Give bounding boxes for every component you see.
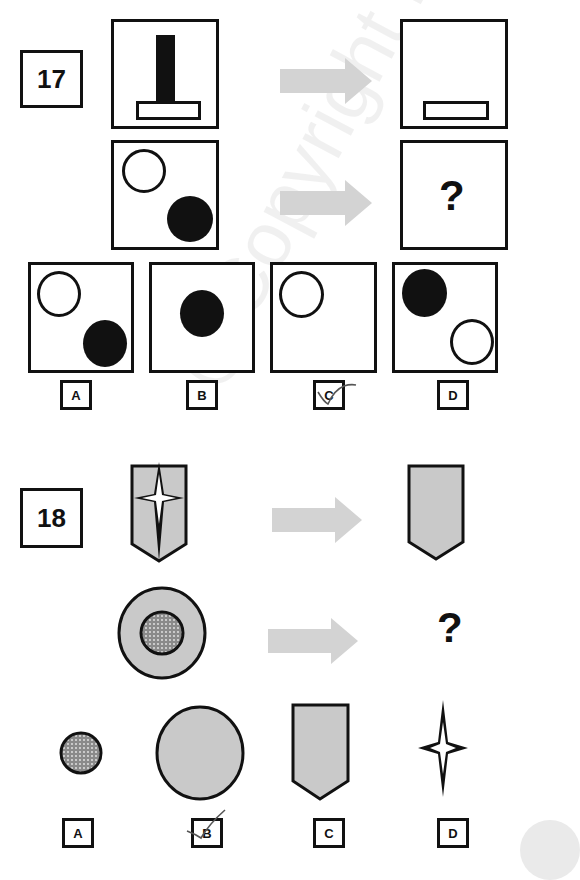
q18-option-b-figure[interactable] <box>154 703 246 803</box>
page-corner-shadow <box>520 820 580 880</box>
arrow-right-icon <box>272 497 362 543</box>
arrow-right-icon <box>268 618 358 664</box>
check-mark-icon <box>316 380 361 410</box>
q17-answer-placeholder: ? <box>400 140 508 250</box>
q17-example-output-figure <box>400 19 508 129</box>
question-mark: ? <box>439 175 465 217</box>
question-number-17: 17 <box>20 50 83 108</box>
q17-option-b-figure[interactable] <box>149 262 255 373</box>
q18-example-output-figure <box>406 462 468 564</box>
q18-option-c-figure[interactable] <box>290 702 352 802</box>
check-mark-icon <box>185 808 230 848</box>
open-circle <box>279 271 324 318</box>
filled-circle <box>83 320 127 367</box>
q17-option-b-label[interactable]: B <box>186 380 218 410</box>
q18-option-d-label[interactable]: D <box>437 818 469 848</box>
q17-problem-input-figure <box>111 140 219 250</box>
q18-problem-input-figure <box>116 586 208 680</box>
filled-circle <box>167 196 213 242</box>
outlined-base-rect <box>136 101 201 120</box>
q18-option-a-figure[interactable] <box>58 730 104 776</box>
q18-example-input-figure <box>130 462 190 566</box>
filled-circle <box>180 290 224 337</box>
q17-option-c-figure[interactable] <box>270 262 377 373</box>
q17-option-d-label[interactable]: D <box>437 380 469 410</box>
q17-option-d-figure[interactable] <box>392 262 498 373</box>
filled-circle <box>402 269 447 317</box>
q17-example-input-figure <box>111 19 219 129</box>
open-circle <box>122 149 166 193</box>
black-vertical-bar <box>156 35 175 102</box>
q17-option-a-label[interactable]: A <box>60 380 92 410</box>
question-mark: ? <box>437 607 463 649</box>
q17-option-a-figure[interactable] <box>28 262 134 373</box>
arrow-right-icon <box>280 58 372 104</box>
arrow-right-icon <box>280 180 372 226</box>
q18-option-c-label[interactable]: C <box>313 818 345 848</box>
open-circle <box>450 319 494 365</box>
question-number-18: 18 <box>20 488 83 548</box>
q18-option-a-label[interactable]: A <box>62 818 94 848</box>
open-circle <box>37 271 81 317</box>
outlined-base-rect <box>423 101 489 120</box>
q18-option-d-figure[interactable] <box>416 700 470 798</box>
